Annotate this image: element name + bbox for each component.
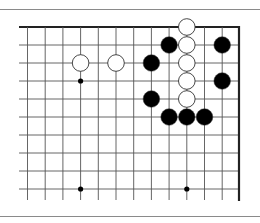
white-stone (179, 19, 196, 36)
white-stone (179, 73, 196, 90)
white-stone (179, 37, 196, 54)
white-stone (179, 55, 196, 72)
black-stone (143, 91, 160, 108)
black-stone (143, 55, 160, 72)
black-stone (161, 37, 178, 54)
black-stone (214, 73, 231, 90)
black-stone (214, 37, 231, 54)
white-stone (179, 91, 196, 108)
go-board (0, 0, 260, 223)
star-point (184, 186, 189, 191)
star-point (78, 186, 83, 191)
black-stone (161, 109, 178, 126)
black-stone (179, 109, 196, 126)
white-stone (108, 55, 125, 72)
white-stone (72, 55, 89, 72)
black-stone (196, 109, 213, 126)
star-point (78, 78, 83, 83)
